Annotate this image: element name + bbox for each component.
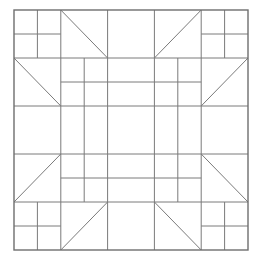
diag-left-bottom — [14, 154, 61, 202]
diag-bottom-right — [154, 202, 201, 250]
diag-top-left — [61, 10, 108, 58]
line-segments — [14, 10, 248, 250]
diag-bottom-left — [61, 202, 108, 250]
diag-left-top — [14, 58, 61, 106]
outer-border — [14, 10, 248, 250]
diag-top-right — [154, 10, 201, 58]
quilt-block-diagram — [0, 0, 259, 262]
diag-right-bottom — [201, 154, 248, 202]
diag-right-top — [201, 58, 248, 106]
